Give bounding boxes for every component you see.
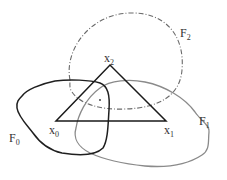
label-F2: F2 [180,26,191,42]
interior-point-dot [99,99,101,101]
svg-text:F2: F2 [180,26,191,42]
svg-text:x0: x0 [49,123,59,139]
set-F1-boundary [75,80,209,166]
label-x1: x1 [164,123,174,139]
label-F0: F0 [9,131,20,147]
label-x2: x2 [104,51,114,67]
label-F1: F1 [199,114,210,130]
svg-text:x1: x1 [164,123,174,139]
set-F2-boundary [69,13,182,109]
svg-text:x2: x2 [104,51,114,67]
diagram-canvas: x2 x0 x1 F0 F1 F2 [0,0,227,180]
svg-text:F1: F1 [199,114,210,130]
label-x0: x0 [49,123,59,139]
svg-text:F0: F0 [9,131,20,147]
